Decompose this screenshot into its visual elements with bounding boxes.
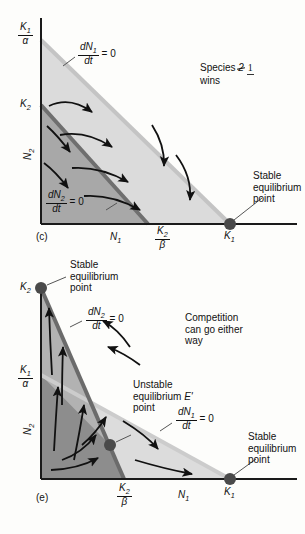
leader-line-dn1-e [160,423,172,431]
frac-num: dN2 [86,307,107,321]
eq-zero: = 0 [70,196,84,207]
equilibrium-point-unstable-e [104,439,116,451]
outcome-line-1: Competition [185,312,238,323]
frac-den: dt [176,421,197,432]
panel-c-species1-wins: K1 α K2 N2 dN1 dt = 0 dN2 dt = 0 Species… [0,0,305,267]
annotation-line-1: Stable [70,259,98,270]
equilibrium-symbol-e-prime: E' [184,391,193,402]
leader-line-dn2-e [70,321,82,327]
frac-den: β [117,497,132,508]
frac-num: dN2 [46,190,67,204]
panel-c-plot [0,0,305,267]
annotation-line-2: equilibrium [133,391,181,402]
annotation-line-1: Stable [253,170,281,181]
annotation-line-1: Unstable [133,379,172,390]
annotation-line-3: point [253,193,275,204]
panel-letter-e: (e) [36,492,48,504]
x-axis-title-e: N1 [178,489,189,503]
annotation-line-3: point [248,454,270,465]
y-axis-title-e: N2 [22,424,36,435]
y-tick-k2-c: K2 [20,98,31,112]
y-tick-k1-over-alpha-c: K1 α [18,22,33,46]
outcome-line-2: can go either [185,324,243,335]
x-tick-k1-c: K1 [224,230,235,244]
frac-den: β [155,240,170,251]
outcome-wins-word: wins [200,75,220,86]
panel-letter-c: (c) [36,231,48,243]
outcome-annotation-e: Competition can go either way [185,312,243,347]
annotation-line-3: point [133,402,155,413]
y-tick-k1-over-alpha-e: K1 α [18,365,33,389]
frac-num: dN1 [176,407,197,421]
x-tick-k2-over-beta-e: K2 β [117,483,132,507]
panel-e-either-way: K2 Stable equilibrium point dN2 dt = 0 C… [0,255,305,534]
annotation-line-3: point [70,282,92,293]
outcome-line-3: way [185,335,203,346]
frac-den: dt [78,56,99,67]
annotation-stable-equilibrium-k1-e: Stable equilibrium point [248,431,296,466]
annotation-stable-equilibrium-k2-e: Stable equilibrium point [70,259,118,294]
leader-line-stable-k2-e [47,277,66,285]
frac-num: K1 [18,365,33,379]
eq-zero: = 0 [102,48,116,59]
annotation-stable-equilibrium-c: Stable equilibrium point [253,170,301,205]
outcome-species-number-struck: 2 [238,62,244,74]
y-axis-title-c: N2 [22,149,36,160]
isocline-label-dn1-c: dN1 dt = 0 [78,42,116,66]
x-axis-title-c: N1 [110,231,121,245]
frac-den: dt [46,204,67,215]
eq-zero: = 0 [200,413,214,424]
outcome-species-word: Species [200,62,236,73]
frac-num: K2 [117,483,132,497]
annotation-line-1: Stable [248,431,276,442]
frac-num: dN1 [78,42,99,56]
annotation-line-2: equilibrium [253,182,301,193]
frac-den: dt [86,321,107,332]
annotation-line-2: equilibrium [70,271,118,282]
equilibrium-point-k2-e [35,282,47,294]
outcome-annotation-c: Species 2 1 wins [200,62,254,86]
outcome-species-number-handwritten: 1 [247,62,254,75]
isocline-label-dn2-e: dN2 dt = 0 [86,307,124,331]
isocline-label-dn2-c: dN2 dt = 0 [46,190,84,214]
frac-den: α [18,36,33,47]
x-tick-k2-over-beta-c: K2 β [155,226,170,250]
y-tick-k2-e: K2 [20,281,31,295]
frac-den: α [18,379,33,390]
frac-num: K1 [18,22,33,36]
isocline-label-dn1-e: dN1 dt = 0 [176,407,214,431]
x-tick-k1-e: K1 [224,486,235,500]
annotation-line-2: equilibrium [248,443,296,454]
eq-zero: = 0 [110,313,124,324]
frac-num: K2 [155,226,170,240]
